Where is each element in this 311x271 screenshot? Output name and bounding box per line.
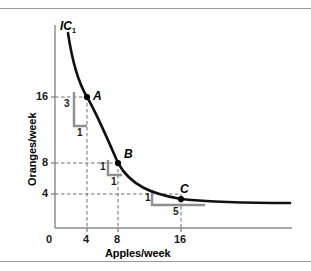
y-tick-label-4: 4 — [42, 188, 48, 199]
indifference-curve-plot — [0, 0, 311, 271]
curve-label-ic1: IC1 — [60, 20, 76, 34]
y-tick-label-16: 16 — [36, 91, 48, 102]
data-point-a[interactable] — [84, 94, 90, 100]
point-label-a: A — [93, 90, 102, 102]
point-label-c: C — [180, 183, 189, 195]
point-label-b: B — [124, 148, 133, 160]
data-point-c[interactable] — [178, 196, 184, 202]
curve-label-subscript: 1 — [72, 27, 76, 34]
slope-rise-label-a: 3 — [64, 99, 70, 109]
x-tick-label-0: 0 — [46, 234, 52, 245]
x-tick-label-4: 4 — [83, 234, 89, 245]
data-point-b[interactable] — [115, 160, 121, 166]
slope-rise-label-c: 1 — [145, 193, 151, 203]
slope-run-label-a: 1 — [77, 128, 83, 138]
y-axis-title: Oranges/week — [27, 113, 38, 186]
slope-run-label-c: 5 — [173, 207, 179, 217]
x-axis-title: Apples/week — [105, 248, 171, 259]
curve-label-text: IC — [60, 19, 72, 33]
y-tick-label-8: 8 — [42, 157, 48, 168]
slope-run-label-b: 1 — [111, 177, 117, 187]
figure-container: IC1 A B C 3 1 1 1 1 5 16 8 4 0 4 8 16 Or… — [0, 0, 311, 271]
indifference-curve-path — [68, 33, 290, 203]
slope-rise-label-b: 1 — [100, 162, 106, 172]
x-tick-label-8: 8 — [114, 234, 120, 245]
x-tick-label-16: 16 — [174, 234, 186, 245]
